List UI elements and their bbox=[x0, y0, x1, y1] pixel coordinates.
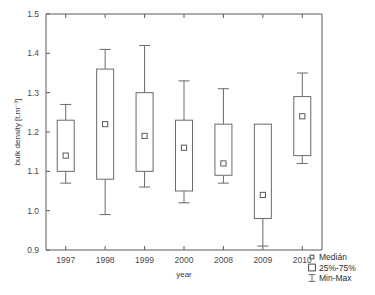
iqr-box bbox=[136, 93, 153, 172]
iqr-box bbox=[254, 124, 271, 218]
legend-iqr-symbol bbox=[309, 264, 316, 271]
y-tick-label: 1.2 bbox=[27, 127, 39, 137]
y-axis-title: bulk density [t.m⁻³] bbox=[13, 99, 22, 166]
legend-label-range: Min-Max bbox=[319, 273, 352, 283]
x-axis-title: year bbox=[176, 270, 192, 279]
x-tick-label-1997: 1997 bbox=[56, 255, 75, 265]
median-marker bbox=[300, 114, 305, 119]
chart-canvas: 0.91.01.11.21.31.41.5 199719981999200020… bbox=[0, 0, 375, 295]
x-tick-label-1998: 1998 bbox=[96, 255, 115, 265]
y-tick-label: 0.9 bbox=[27, 245, 39, 255]
median-marker bbox=[181, 145, 186, 150]
iqr-box bbox=[176, 120, 193, 191]
legend-median-symbol bbox=[310, 255, 314, 259]
legend-label-median: Medián bbox=[319, 252, 347, 262]
y-tick-label: 1.0 bbox=[27, 206, 39, 216]
iqr-box bbox=[57, 120, 74, 171]
box-plot-chart: 0.91.01.11.21.31.41.5 199719981999200020… bbox=[0, 0, 375, 295]
y-tick-label: 1.4 bbox=[27, 48, 39, 58]
iqr-box bbox=[294, 97, 311, 156]
x-tick-label-2008: 2008 bbox=[214, 255, 233, 265]
x-tick-label-2010: 2010 bbox=[293, 255, 312, 265]
median-marker bbox=[103, 122, 108, 127]
x-tick-label-1999: 1999 bbox=[135, 255, 154, 265]
y-tick-label: 1.5 bbox=[27, 9, 39, 19]
x-tick-label-2009: 2009 bbox=[253, 255, 272, 265]
median-marker bbox=[260, 192, 265, 197]
y-tick-label: 1.3 bbox=[27, 88, 39, 98]
legend-label-iqr: 25%-75% bbox=[319, 263, 356, 273]
iqr-box bbox=[215, 124, 232, 175]
median-marker bbox=[221, 161, 226, 166]
legend-item-iqr: 25%-75% bbox=[309, 263, 357, 273]
x-tick-label-2000: 2000 bbox=[175, 255, 194, 265]
median-marker bbox=[63, 153, 68, 158]
median-marker bbox=[142, 133, 147, 138]
y-tick-label: 1.1 bbox=[27, 166, 39, 176]
